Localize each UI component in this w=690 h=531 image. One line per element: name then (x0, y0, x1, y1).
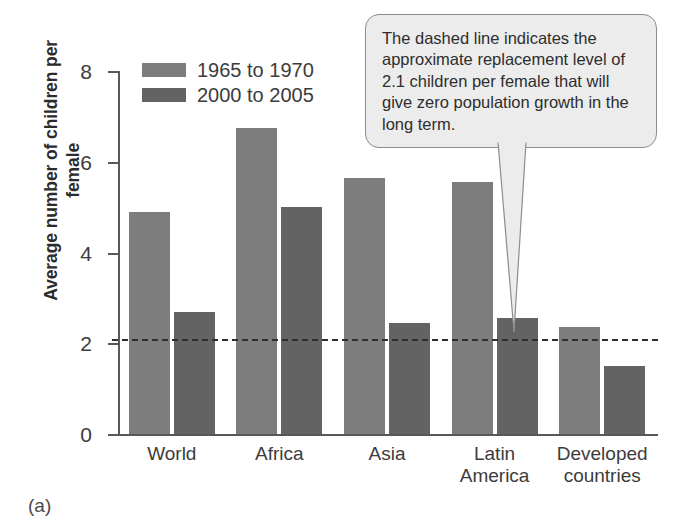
y-axis-label: Average number of children per female (40, 20, 85, 320)
legend-item-series-0: 1965 to 1970 (142, 60, 314, 80)
bar-world-series-0 (129, 212, 170, 434)
figure-container: Average number of children per female 02… (0, 0, 690, 531)
legend-swatch-icon-series-1 (142, 88, 186, 102)
y-axis-tick-label-2: 2 (80, 333, 92, 354)
callout-pointer-icon (497, 142, 527, 332)
bar-world-series-1 (174, 312, 215, 435)
legend-label-series-1: 2000 to 2005 (197, 85, 314, 105)
x-axis-label-developed-countries: Developed countries (536, 443, 668, 488)
bar-latin-america-series-1 (497, 318, 538, 434)
callout-box: The dashed line indicates the approximat… (365, 14, 657, 148)
legend-swatch-icon-series-0 (142, 63, 186, 77)
legend-label-series-0: 1965 to 1970 (197, 60, 314, 80)
bar-africa-series-1 (281, 207, 322, 434)
legend-item-series-1: 2000 to 2005 (142, 85, 314, 105)
bar-developed-countries-series-0 (559, 327, 600, 434)
bar-asia-series-0 (344, 178, 385, 434)
y-axis-tick-label-6: 6 (80, 151, 92, 172)
x-axis-line (118, 434, 658, 436)
y-axis-tick-label-8: 8 (80, 61, 92, 82)
y-axis-tick-6: 6 (108, 162, 119, 164)
bar-africa-series-0 (236, 128, 277, 434)
bar-developed-countries-series-1 (604, 366, 645, 434)
y-axis-tick-label-0: 0 (80, 424, 92, 445)
y-axis-tick-label-4: 4 (80, 242, 92, 263)
y-axis-tick-4: 4 (108, 253, 119, 255)
chart-legend: 1965 to 1970 2000 to 2005 (142, 60, 314, 105)
bar-latin-america-series-0 (452, 182, 493, 434)
y-axis-tick-8: 8 (108, 71, 119, 73)
replacement-level-line (112, 339, 658, 341)
figure-caption: (a) (28, 495, 51, 517)
y-axis-tick-2: 2 (108, 343, 119, 345)
y-axis-tick-0: 0 (108, 434, 119, 436)
